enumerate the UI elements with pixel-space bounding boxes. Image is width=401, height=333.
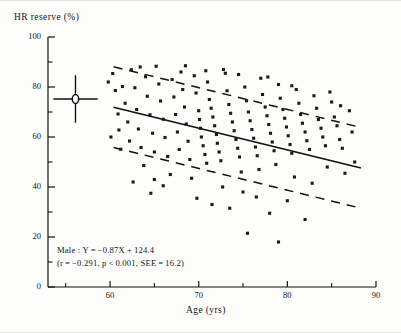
scatter-point: [171, 78, 174, 81]
scatter-point: [117, 128, 120, 131]
scatter-point: [250, 128, 253, 131]
scatter-point: [247, 110, 250, 113]
scatter-point: [178, 148, 181, 151]
scatter-point: [159, 99, 162, 102]
scatter-point: [257, 168, 260, 171]
scatter-point: [279, 97, 282, 100]
scatter-point: [252, 137, 255, 140]
scatter-point: [195, 197, 198, 200]
regression-annotation: Male : Y = −0.87X + 124.4 (r = −0.291, p…: [57, 244, 184, 269]
scatter-point: [181, 88, 184, 91]
scatter-point: [243, 85, 246, 88]
scatter-point: [237, 73, 240, 76]
scatter-point: [287, 134, 290, 137]
scatter-point: [166, 155, 169, 158]
data-points: [107, 64, 357, 243]
scatter-point: [261, 93, 264, 96]
scatter-point: [236, 147, 239, 150]
scatter-point: [153, 150, 156, 153]
scatter-point: [139, 65, 142, 68]
scatter-point: [146, 95, 149, 98]
scatter-point: [190, 177, 193, 180]
scatter-point: [259, 77, 262, 80]
scatter-point: [321, 135, 324, 138]
scatter-point: [213, 124, 216, 127]
scatter-point: [264, 105, 267, 108]
y-tick-label: 20: [19, 231, 41, 241]
scatter-plot: [0, 0, 401, 333]
mean-sd-crosshair: [53, 75, 97, 123]
scatter-point: [227, 103, 230, 106]
y-tick-label: 40: [19, 181, 41, 191]
y-tick-label: 100: [19, 31, 41, 41]
scatter-point: [163, 136, 166, 139]
scatter-point: [234, 138, 237, 141]
scatter-point: [140, 146, 143, 149]
scatter-point: [155, 65, 158, 68]
scatter-point: [277, 240, 280, 243]
scatter-point: [288, 143, 291, 146]
scatter-point: [128, 139, 131, 142]
scatter-point: [295, 88, 298, 91]
annotation-stats-line: (r = −0.291, p < 0.001, SEE = 16.2): [57, 257, 184, 270]
scatter-point: [124, 102, 127, 105]
scatter-point: [266, 75, 269, 78]
scatter-point: [233, 129, 236, 132]
scatter-point: [204, 69, 207, 72]
scatter-point: [174, 113, 177, 116]
scatter-point: [317, 118, 320, 121]
x-tick-label: 60: [98, 290, 122, 300]
scatter-point: [249, 119, 252, 122]
x-axis-ticks: [66, 281, 376, 287]
scatter-point: [199, 127, 202, 130]
scatter-point: [221, 185, 224, 188]
y-tick-label: 0: [19, 281, 41, 291]
scatter-point: [194, 91, 197, 94]
scatter-point: [149, 192, 152, 195]
annotation-equation-line: Male : Y = −0.87X + 124.4: [57, 244, 184, 257]
x-tick-label: 90: [364, 290, 388, 300]
scatter-point: [274, 163, 277, 166]
scatter-point: [184, 64, 187, 67]
scatter-point: [153, 178, 156, 181]
scatter-point: [269, 132, 272, 135]
scatter-point: [218, 150, 221, 153]
scatter-point: [256, 154, 259, 157]
scatter-point: [215, 133, 218, 136]
scatter-point: [216, 142, 219, 145]
scatter-point: [142, 164, 145, 167]
scatter-point: [246, 232, 249, 235]
y-axis-title: HR reserve (%): [14, 12, 79, 22]
scatter-point: [241, 190, 244, 193]
scatter-point: [353, 160, 356, 163]
scatter-point: [281, 108, 284, 111]
scatter-point: [348, 109, 351, 112]
scatter-point: [229, 112, 232, 115]
scatter-point: [107, 80, 110, 83]
scatter-point: [268, 212, 271, 215]
scatter-point: [114, 89, 117, 92]
scatter-point: [293, 175, 296, 178]
scatter-point: [198, 118, 201, 121]
scatter-point: [312, 94, 315, 97]
y-tick-label: 60: [19, 131, 41, 141]
scatter-point: [205, 162, 208, 165]
figure-canvas: HR reserve (%) Age (yrs) Male : Y = −0.8…: [0, 0, 401, 333]
scatter-point: [119, 148, 122, 151]
scatter-point: [208, 98, 211, 101]
scatter-point: [240, 170, 243, 173]
scatter-point: [226, 89, 229, 92]
scatter-point: [130, 68, 133, 71]
scatter-point: [222, 68, 225, 71]
scatter-point: [265, 114, 268, 117]
scatter-point: [224, 72, 227, 75]
scatter-point: [179, 70, 182, 73]
scatter-point: [328, 90, 331, 93]
scatter-point: [343, 172, 346, 175]
scatter-point: [339, 104, 342, 107]
scatter-point: [290, 84, 293, 87]
scatter-point: [338, 138, 341, 141]
scatter-point: [326, 165, 329, 168]
scatter-point: [255, 195, 258, 198]
scatter-point: [285, 125, 288, 128]
